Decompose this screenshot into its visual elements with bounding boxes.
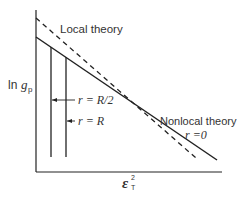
- x-axis-label-symbol: ε: [122, 175, 129, 191]
- nonlocal-theory-label: Nonlocal theory: [160, 115, 237, 127]
- y-axis-label-prefix: ln: [8, 78, 17, 92]
- x-axis-label: ε 2 T: [122, 174, 136, 191]
- y-axis-label-subscript: p: [28, 85, 33, 94]
- local-theory-dashed-line: [36, 18, 196, 158]
- y-axis-label-symbol: g: [21, 77, 28, 92]
- x-axis-label-subscript: T: [131, 184, 136, 191]
- r-half-R-label: r = R/2: [78, 93, 113, 107]
- r-R-label: r = R: [78, 114, 105, 128]
- y-axis-label: ln g p: [8, 77, 33, 94]
- ln-gp-vs-epsilon-diagram: Local theory Nonlocal theory r =0 r = R/…: [0, 0, 239, 198]
- r-zero-label: r =0: [185, 128, 207, 142]
- arrow-r-half-R: [52, 98, 75, 102]
- arrow-r-R: [67, 119, 75, 123]
- local-theory-label: Local theory: [60, 23, 123, 35]
- x-axis-label-superscript: 2: [131, 174, 135, 181]
